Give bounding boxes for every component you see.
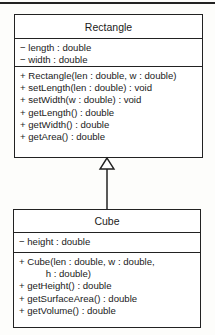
attribute: − height : double xyxy=(19,236,196,248)
hollow-triangle-icon xyxy=(100,158,114,169)
method: + getHeight() : double xyxy=(19,280,196,292)
method: + Cube(len : double, w : double, xyxy=(19,256,196,268)
attributes-section: − height : double xyxy=(14,233,200,253)
methods-section: + Cube(len : double, w : double, h : dou… xyxy=(14,253,200,319)
method: + getVolume() : double xyxy=(19,305,196,317)
class-cube: Cube − height : double + Cube(len : doub… xyxy=(13,209,201,328)
class-name-label: Cube xyxy=(94,215,119,227)
class-name: Cube xyxy=(14,210,200,233)
method: h : double) xyxy=(19,268,196,280)
method: + getSurfaceArea() : double xyxy=(19,293,196,305)
